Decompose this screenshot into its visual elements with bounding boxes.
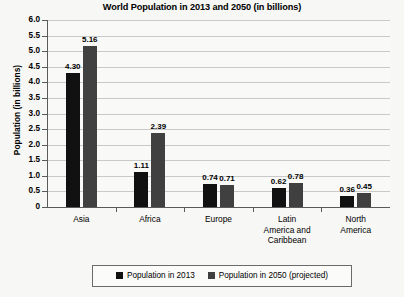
legend-label-2050: Population in 2050 (projected) xyxy=(219,272,328,280)
x-tick-mark xyxy=(184,208,185,212)
bar xyxy=(220,185,234,207)
y-tick-mark xyxy=(42,207,47,208)
bar-value-label: 1.11 xyxy=(128,162,154,170)
gridline xyxy=(47,51,390,52)
bar-value-label: 2.39 xyxy=(145,123,171,131)
category-label: Latin America and Caribbean xyxy=(253,214,322,246)
y-tick-label: 4.5 xyxy=(0,63,40,71)
y-tick-label: 2.0 xyxy=(0,141,40,149)
bar xyxy=(289,183,303,207)
legend-swatch-icon xyxy=(116,272,123,279)
bar-value-label: 0.71 xyxy=(214,175,240,183)
gridline xyxy=(47,145,390,146)
x-tick-mark xyxy=(321,208,322,212)
legend-swatch-icon xyxy=(208,272,215,279)
bar xyxy=(340,196,354,207)
y-tick-label: 3.0 xyxy=(0,110,40,118)
bar xyxy=(66,73,80,207)
category-label: Europe xyxy=(184,214,253,225)
chart-legend: Population in 2013 Population in 2050 (p… xyxy=(92,265,352,287)
bar xyxy=(272,188,286,207)
y-axis-line xyxy=(47,20,48,208)
gridline xyxy=(47,129,390,130)
x-axis-line xyxy=(47,207,390,208)
y-tick-mark xyxy=(42,67,47,68)
x-tick-mark xyxy=(116,208,117,212)
y-tick-mark xyxy=(42,36,47,37)
y-tick-label: 4.0 xyxy=(0,78,40,86)
legend-label-2013: Population in 2013 xyxy=(127,272,195,280)
y-tick-mark xyxy=(42,82,47,83)
gridline xyxy=(47,67,390,68)
chart-title: World Population in 2013 and 2050 (in bi… xyxy=(0,2,404,12)
gridline xyxy=(47,20,390,21)
y-tick-label: 6.0 xyxy=(0,16,40,24)
category-label: Africa xyxy=(116,214,185,225)
gridline xyxy=(47,82,390,83)
y-tick-mark xyxy=(42,98,47,99)
y-tick-label: 2.5 xyxy=(0,125,40,133)
bar xyxy=(357,193,371,207)
y-tick-mark xyxy=(42,129,47,130)
y-tick-label: 3.5 xyxy=(0,94,40,102)
bar-chart: World Population in 2013 and 2050 (in bi… xyxy=(0,0,404,297)
bar-value-label: 5.16 xyxy=(77,36,103,44)
y-tick-label: 5.0 xyxy=(0,47,40,55)
y-tick-mark xyxy=(42,191,47,192)
gridline xyxy=(47,114,390,115)
y-tick-mark xyxy=(42,51,47,52)
bar-value-label: 0.45 xyxy=(351,183,377,191)
y-tick-label: 1.5 xyxy=(0,156,40,164)
bar-value-label: 4.30 xyxy=(60,63,86,71)
y-tick-label: 1.0 xyxy=(0,172,40,180)
category-label: North America xyxy=(321,214,390,235)
y-tick-mark xyxy=(42,176,47,177)
category-label: Asia xyxy=(47,214,116,225)
x-tick-mark xyxy=(253,208,254,212)
y-tick-label: 0 xyxy=(0,203,40,211)
gridline xyxy=(47,160,390,161)
legend-item-2050: Population in 2050 (projected) xyxy=(208,272,328,280)
y-tick-mark xyxy=(42,145,47,146)
y-tick-mark xyxy=(42,114,47,115)
legend-item-2013: Population in 2013 xyxy=(116,272,195,280)
bar xyxy=(203,184,217,207)
bar-value-label: 0.78 xyxy=(283,173,309,181)
gridline xyxy=(47,98,390,99)
bar xyxy=(134,172,148,207)
y-tick-label: 5.5 xyxy=(0,32,40,40)
y-tick-label: 0.5 xyxy=(0,187,40,195)
y-tick-mark xyxy=(42,160,47,161)
y-tick-mark xyxy=(42,20,47,21)
